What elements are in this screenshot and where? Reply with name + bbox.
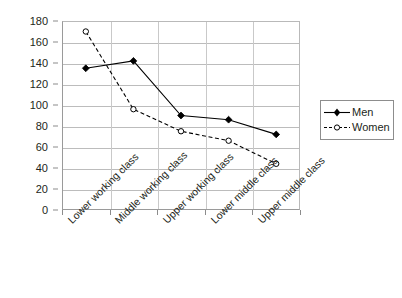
y-tick-mark	[53, 63, 58, 64]
series-line-men	[86, 61, 276, 134]
data-point-men-0	[82, 65, 89, 72]
y-tick-mark	[53, 189, 58, 190]
series-line-women	[86, 32, 276, 164]
data-point-women-2	[178, 129, 183, 134]
y-tick-label: 180	[30, 16, 48, 27]
y-tick-label: 40	[36, 163, 48, 174]
y-tick-mark	[53, 84, 58, 85]
x-tick-mark	[300, 210, 301, 215]
legend-item-men: Men	[324, 105, 389, 120]
women-line-marker-icon	[324, 121, 350, 134]
x-tick-mark	[110, 210, 111, 215]
data-series-layer	[62, 21, 300, 210]
line-chart-figure: 020406080100120140160180 Lower working c…	[0, 0, 402, 298]
legend-item-women: Women	[324, 120, 389, 135]
y-axis: 020406080100120140160180	[0, 0, 58, 231]
chart-legend: Men Women	[320, 100, 394, 140]
data-point-women-0	[83, 29, 88, 34]
y-tick-label: 100	[30, 100, 48, 111]
x-tick-mark	[62, 210, 63, 215]
y-tick-label: 160	[30, 37, 48, 48]
x-tick-mark	[205, 210, 206, 215]
y-tick-mark	[53, 147, 58, 148]
y-tick-label: 120	[30, 79, 48, 90]
y-tick-label: 80	[36, 121, 48, 132]
x-axis: Lower working classMiddle working classU…	[0, 210, 402, 298]
y-tick-mark	[53, 126, 58, 127]
y-tick-mark	[53, 21, 58, 22]
y-tick-mark	[53, 168, 58, 169]
bottom-caption	[8, 292, 398, 298]
data-point-women-3	[226, 138, 231, 143]
y-tick-mark	[53, 105, 58, 106]
data-point-women-1	[131, 107, 136, 112]
y-tick-mark	[53, 42, 58, 43]
y-tick-label: 140	[30, 58, 48, 69]
data-point-men-4	[273, 131, 280, 138]
y-tick-label: 60	[36, 142, 48, 153]
legend-label-women: Women	[350, 122, 390, 133]
x-tick-mark	[157, 210, 158, 215]
men-line-marker-icon	[324, 106, 350, 119]
x-tick-mark	[252, 210, 253, 215]
legend-label-men: Men	[350, 107, 373, 118]
y-tick-label: 20	[36, 184, 48, 195]
data-point-men-3	[225, 116, 232, 123]
